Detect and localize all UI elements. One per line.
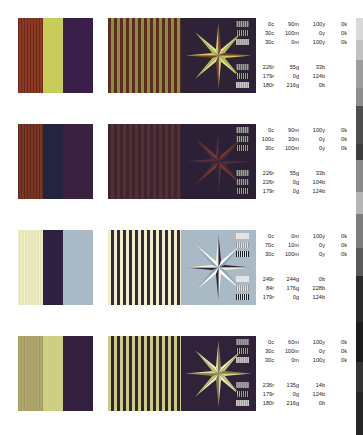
legend-row: 30c0m100y0k	[236, 38, 347, 46]
edge-strip-segment	[356, 276, 363, 322]
rgb-swatch	[236, 285, 249, 291]
cmyk-swatch	[236, 339, 249, 345]
cmyk-value: 100m	[274, 145, 299, 151]
rgb-value: 124b	[299, 73, 325, 79]
rgb-values: 179r0g124b	[254, 391, 325, 397]
cmyk-value: 30c	[254, 39, 274, 45]
cmyk-value: 0k	[325, 30, 347, 36]
legend-row: 30c100m0y0k	[236, 29, 347, 37]
cmyk-value: 30c	[254, 251, 274, 257]
rgb-value: 55g	[274, 170, 299, 176]
rgb-values: 236r135g14b	[254, 382, 325, 388]
stripe-pattern	[108, 124, 183, 199]
cmyk-value: 0k	[325, 233, 347, 239]
edge-strip-segment	[356, 60, 363, 88]
legend-row: 179r0g124b	[236, 187, 325, 195]
cmyk-swatch	[236, 348, 249, 354]
cmyk-value: 30c	[254, 348, 274, 354]
cmyk-value: 0k	[325, 242, 347, 248]
edge-strip-segment	[356, 0, 363, 18]
rgb-swatch	[236, 179, 249, 185]
cmyk-value: 100m	[274, 30, 299, 36]
test-chart-row-1: 0c90m100y0k30c100m0y0k30c0m100y0k226r55g…	[0, 18, 363, 124]
edge-strip-segment	[356, 160, 363, 192]
fine-stripes-panel	[108, 336, 183, 411]
rgb-value: 226r	[254, 64, 274, 70]
rgb-value: 0g	[274, 179, 299, 185]
cmyk-value: 30c	[254, 357, 274, 363]
cmyk-value: 90m	[274, 127, 299, 133]
cmyk-value: 100y	[299, 39, 325, 45]
cmyk-legend: 0c0m100y0k70c10m0y0k30c100m0y0k	[236, 232, 347, 259]
cmyk-value: 0m	[274, 39, 299, 45]
rgb-value: 216g	[274, 400, 299, 406]
rgb-value: 55g	[274, 64, 299, 70]
rgb-value: 104b	[299, 179, 325, 185]
rgb-values: 180r216g0b	[254, 82, 325, 88]
edge-strip-segment	[356, 214, 363, 248]
color-test-chart-sheet: 0c90m100y0k30c100m0y0k30c0m100y0k226r55g…	[0, 0, 363, 435]
cmyk-swatch	[236, 251, 249, 257]
test-chart-row-3: 0c0m100y0k70c10m0y0k30c100m0y0k249r244g0…	[0, 230, 363, 336]
cmyk-value: 100y	[299, 21, 325, 27]
legend-row: 249r244g0b	[236, 275, 325, 283]
cmyk-value: 0y	[299, 348, 325, 354]
rgb-swatch	[236, 276, 249, 282]
stripe-pattern	[108, 336, 183, 411]
edge-strip-segment	[356, 144, 363, 160]
rgb-values: 249r244g0b	[254, 276, 325, 282]
legend-row: 84r176g228b	[236, 284, 325, 292]
right-edge-color-strip	[356, 0, 363, 435]
cmyk-value: 60m	[274, 339, 299, 345]
rgb-value: 226r	[254, 170, 274, 176]
cmyk-legend: 0c90m100y0k30c100m0y0k30c0m100y0k	[236, 20, 347, 47]
edge-strip-segment	[356, 106, 363, 144]
test-chart-row-4: 0c60m100y0k30c100m0y0k30c0m100y0k236r135…	[0, 336, 363, 435]
cmyk-value: 0c	[254, 21, 274, 27]
cmyk-values: 0c90m100y0k	[254, 127, 347, 133]
rgb-value: 180r	[254, 82, 274, 88]
rgb-value: 0g	[274, 391, 299, 397]
rgb-value: 179r	[254, 391, 274, 397]
legend-row: 70c10m0y0k	[236, 241, 347, 249]
legend-row: 30c0m100y0k	[236, 356, 347, 364]
vertical-bands-panel	[18, 230, 93, 305]
edge-strip-segment	[356, 392, 363, 435]
color-band	[43, 336, 63, 411]
cmyk-value: 0y	[299, 145, 325, 151]
rgb-swatch	[236, 82, 249, 88]
rgb-swatch	[236, 188, 249, 194]
cmyk-values: 70c10m0y0k	[254, 242, 347, 248]
legend-row: 226r0g104b	[236, 178, 325, 186]
rgb-swatch	[236, 400, 249, 406]
cmyk-value: 100y	[299, 339, 325, 345]
legend-row: 226r55g33b	[236, 63, 325, 71]
cmyk-value: 100y	[299, 357, 325, 363]
rgb-value: 0g	[274, 188, 299, 194]
cmyk-values: 0c90m100y0k	[254, 21, 347, 27]
legend-row: 0c0m100y0k	[236, 232, 347, 240]
rgb-swatch	[236, 64, 249, 70]
edge-strip-segment	[356, 248, 363, 276]
rgb-values: 226r0g104b	[254, 179, 325, 185]
cmyk-legend: 0c90m100y0k100c30m0y0k30c100m0y0k	[236, 126, 347, 153]
rgb-swatch	[236, 73, 249, 79]
legend-row: 180r216g0b	[236, 81, 325, 89]
cmyk-values: 30c100m0y0k	[254, 145, 347, 151]
rgb-swatch	[236, 294, 249, 300]
edge-strip-segment	[356, 322, 363, 362]
edge-strip-segment	[356, 18, 363, 40]
cmyk-value: 70c	[254, 242, 274, 248]
rgb-value: 0g	[274, 294, 299, 300]
legend-row: 180r216g0b	[236, 399, 325, 407]
cmyk-value: 0m	[274, 233, 299, 239]
cmyk-value: 0k	[325, 348, 347, 354]
rgb-legend: 226r55g33b179r0g124b180r216g0b	[236, 63, 325, 90]
cmyk-value: 0k	[325, 357, 347, 363]
cmyk-value: 0k	[325, 339, 347, 345]
cmyk-value: 0k	[325, 21, 347, 27]
vertical-bands-panel	[18, 124, 93, 199]
cmyk-value: 0c	[254, 127, 274, 133]
cmyk-values: 30c0m100y0k	[254, 357, 347, 363]
cmyk-value: 0c	[254, 233, 274, 239]
